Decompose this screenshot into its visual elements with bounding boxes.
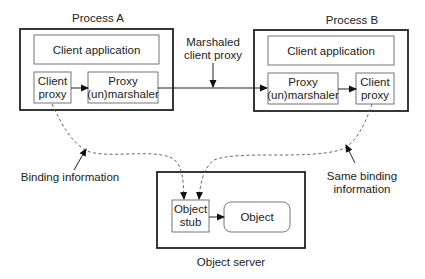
same-binding-info-line1: Same binding: [327, 170, 397, 182]
binding-info-label: Binding information: [21, 171, 119, 183]
process-b-marshaler-line2: (un)marshaler: [267, 89, 339, 101]
process-a-client-proxy-line2: proxy: [38, 88, 66, 100]
process-b-client-application-label: Client application: [287, 45, 375, 57]
process-b: Process B Client application Proxy (un)m…: [254, 14, 408, 111]
process-a-marshaler-line2: (un)marshaler: [87, 88, 159, 100]
process-b-title: Process B: [326, 14, 379, 26]
same-binding-info-line2: information: [334, 183, 391, 195]
binding-curve-a-to-stub: [52, 104, 184, 199]
transfer-label-line1: Marshaled: [186, 36, 240, 48]
process-b-client-proxy-line2: proxy: [361, 89, 389, 101]
object-server: Object server Object stub Object: [157, 172, 305, 268]
diagram-canvas: Process A Client application Client prox…: [0, 0, 425, 279]
process-a: Process A Client application Client prox…: [20, 12, 173, 110]
same-binding-info-pointer: [346, 145, 355, 163]
process-a-client-proxy-line1: Client: [38, 75, 68, 87]
object-stub-line1: Object: [174, 203, 208, 215]
process-a-title: Process A: [72, 12, 124, 24]
process-a-marshaler-line1: Proxy: [108, 75, 138, 87]
object-stub-line2: stub: [180, 216, 202, 228]
annotations: Binding information Same binding informa…: [21, 145, 397, 195]
transfer: Marshaled client proxy: [158, 36, 267, 88]
object-label: Object: [240, 211, 274, 223]
object-server-title: Object server: [197, 256, 266, 268]
binding-info-pointer: [74, 149, 86, 170]
process-a-client-application-label: Client application: [53, 44, 141, 56]
process-b-marshaler-line1: Proxy: [288, 76, 318, 88]
process-b-client-proxy-line1: Client: [360, 76, 390, 88]
transfer-label-line2: client proxy: [184, 49, 242, 61]
